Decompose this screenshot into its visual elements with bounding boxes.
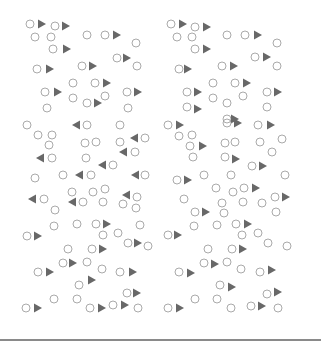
circle-icon <box>227 304 235 312</box>
circle-icon <box>33 65 41 73</box>
circle-icon <box>23 232 31 240</box>
triangle-left-icon <box>130 134 138 143</box>
triangle-right-icon <box>179 20 187 29</box>
circle-icon <box>191 295 199 303</box>
circle-icon <box>281 171 289 179</box>
circle-icon <box>241 31 249 39</box>
triangle-left-icon <box>98 161 106 170</box>
circle-icon <box>119 200 127 208</box>
circle-icon <box>175 65 183 73</box>
circle-icon <box>132 39 140 47</box>
circle-icon <box>232 220 240 228</box>
circle-icon <box>263 290 271 298</box>
circle-icon <box>109 161 117 169</box>
circle-icon <box>273 39 281 47</box>
triangle-right-icon <box>103 79 111 88</box>
circle-icon <box>213 295 221 303</box>
triangle-right-icon <box>63 45 71 54</box>
triangle-right-icon <box>99 245 107 254</box>
triangle-right-icon <box>134 239 142 248</box>
triangle-right-icon <box>258 302 266 311</box>
circle-icon <box>123 289 131 297</box>
triangle-right-icon <box>194 88 202 97</box>
circle-icon <box>273 62 281 70</box>
circle-icon <box>82 154 90 162</box>
circle-icon <box>123 88 131 96</box>
circle-icon <box>75 281 83 289</box>
circle-icon <box>248 162 256 170</box>
circle-icon <box>78 62 86 70</box>
triangle-right-icon <box>267 121 275 130</box>
circle-icon <box>229 188 237 196</box>
circle-icon <box>69 79 77 87</box>
circle-icon <box>26 20 34 28</box>
circle-icon <box>213 221 221 229</box>
triangle-right-icon <box>187 269 195 278</box>
triangle-right-icon <box>184 176 192 185</box>
triangle-right-icon <box>274 288 282 297</box>
circle-icon <box>209 79 217 87</box>
circle-icon <box>47 33 55 41</box>
circle-icon <box>209 94 217 102</box>
triangle-left-icon <box>75 171 83 180</box>
circle-icon <box>274 304 282 312</box>
triangle-right-icon <box>202 208 210 217</box>
triangle-right-icon <box>254 31 262 40</box>
triangle-right-icon <box>259 162 267 171</box>
circle-icon <box>89 188 97 196</box>
circle-icon <box>228 245 236 253</box>
circle-icon <box>268 148 276 156</box>
circle-icon <box>136 221 144 229</box>
circle-icon <box>200 259 208 267</box>
triangle-right-icon <box>129 268 137 277</box>
circle-icon <box>50 222 58 230</box>
circle-icon <box>50 295 58 303</box>
circle-icon <box>91 79 99 87</box>
circle-icon <box>188 131 196 139</box>
circle-icon <box>164 121 172 129</box>
circle-icon <box>40 195 48 203</box>
triangle-right-icon <box>234 119 242 128</box>
circle-icon <box>87 171 95 179</box>
circle-icon <box>116 138 124 146</box>
circle-icon <box>92 138 100 146</box>
circle-icon <box>41 88 49 96</box>
circle-icon <box>64 245 72 253</box>
triangle-right-icon <box>98 304 106 313</box>
circle-icon <box>238 231 246 239</box>
circle-icon <box>271 193 279 201</box>
triangle-right-icon <box>54 88 62 97</box>
triangle-right-icon <box>268 266 276 275</box>
circle-icon <box>231 138 239 146</box>
triangle-right-icon <box>252 184 260 193</box>
triangle-right-icon <box>121 301 129 310</box>
circle-icon <box>218 199 226 207</box>
circle-icon <box>73 220 81 228</box>
circle-icon <box>221 153 229 161</box>
circle-icon <box>116 268 124 276</box>
circle-icon <box>48 154 56 162</box>
triangle-right-icon <box>243 79 251 88</box>
triangle-right-icon <box>176 121 184 130</box>
circle-icon <box>263 103 271 111</box>
triangle-left-icon <box>72 121 80 130</box>
circle-icon <box>220 209 228 217</box>
right-panel <box>164 20 291 313</box>
circle-icon <box>239 92 247 100</box>
circle-icon <box>191 208 199 216</box>
circle-icon <box>256 138 264 146</box>
triangle-left-icon <box>131 171 139 180</box>
circle-icon <box>101 185 109 193</box>
circle-icon <box>263 88 271 96</box>
circle-icon <box>59 171 67 179</box>
circle-icon <box>231 79 239 87</box>
circle-icon <box>99 198 107 206</box>
triangle-right-icon <box>274 88 282 97</box>
triangle-left-icon <box>122 191 130 200</box>
circle-icon <box>200 171 208 179</box>
circle-icon <box>114 229 122 237</box>
circle-icon <box>45 141 53 149</box>
circle-icon <box>83 258 91 266</box>
circle-icon <box>258 199 266 207</box>
triangle-left-icon <box>119 148 127 157</box>
